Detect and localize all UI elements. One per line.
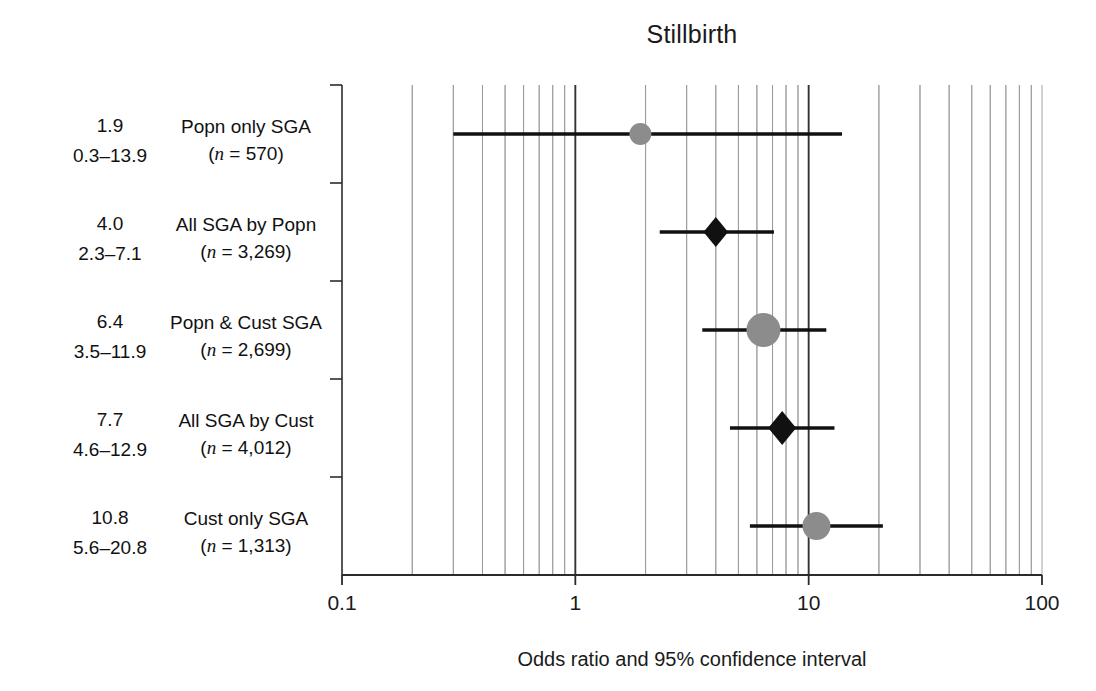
forest-marker-group-1 [453,123,842,145]
x-tick-label-0-1: 0.1 [327,591,356,615]
forest-plot-figure: Stillbirth 1.9 0.3–13.9 Popn only SGA (n… [0,0,1096,691]
x-axis-caption: Odds ratio and 95% confidence interval [342,648,1042,671]
forest-marker-group-4 [730,411,834,445]
x-tick-label-10: 10 [797,591,820,615]
forest-marker-group-5 [750,512,883,540]
forest-marker-group-3 [702,313,826,347]
point-estimate-circle [746,313,780,347]
point-estimate-diamond [704,217,729,247]
point-estimate-circle [629,123,651,145]
point-estimate-circle [802,512,830,540]
x-tick-label-100: 100 [1024,591,1059,615]
plot-canvas [0,0,1096,691]
x-tick-label-1: 1 [569,591,581,615]
